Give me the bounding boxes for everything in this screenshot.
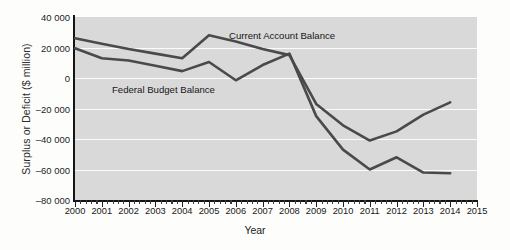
annotation-federal-budget-balance: Federal Budget Balance <box>112 84 215 95</box>
chart-figure: Surplus or Deficit ($ million) 40 00020 … <box>0 0 510 250</box>
line-federal-budget-balance <box>75 48 450 173</box>
annotation-current-account-balance: Current Account Balance <box>229 30 335 41</box>
x-axis-title: Year <box>0 224 510 236</box>
